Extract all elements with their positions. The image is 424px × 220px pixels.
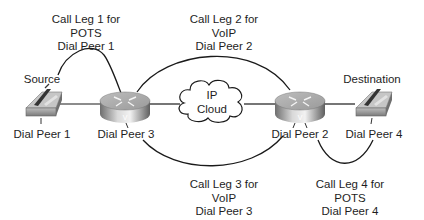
ip-cloud-label: IP Cloud: [197, 89, 227, 116]
call-leg-3-label: Call Leg 3 for VoIP Dial Peer 3: [190, 178, 258, 219]
call-leg-2-line3: Dial Peer 2: [190, 40, 258, 54]
ip-cloud-line2: Cloud: [197, 103, 227, 117]
call-leg-2-label: Call Leg 2 for VoIP Dial Peer 2: [190, 13, 258, 54]
dial-peer-4-label: Dial Peer 4: [346, 128, 403, 142]
svg-text:V: V: [298, 114, 303, 121]
call-leg-3-line3: Dial Peer 3: [190, 205, 258, 219]
call-leg-3-line2: VoIP: [190, 192, 258, 206]
router-dial-peer-2-icon: V: [275, 92, 325, 128]
call-leg-3-arc: [143, 136, 283, 166]
router-dial-peer-3-icon: V: [100, 92, 150, 128]
source-label: Source: [24, 73, 60, 87]
call-leg-4-line2: POTS: [316, 192, 384, 206]
ip-cloud-line1: IP: [197, 89, 227, 103]
dial-peer-3-label: Dial Peer 3: [98, 128, 155, 142]
svg-text:V: V: [123, 114, 128, 121]
destination-phone-icon: [356, 89, 392, 124]
call-leg-3-line1: Call Leg 3 for: [190, 178, 258, 192]
dial-peer-2-label: Dial Peer 2: [272, 128, 329, 142]
call-leg-2-line2: VoIP: [190, 27, 258, 41]
call-leg-1-line1: Call Leg 1 for: [52, 13, 120, 27]
call-leg-1-line3: Dial Peer 1: [52, 40, 120, 54]
call-leg-1-line2: POTS: [52, 27, 120, 41]
call-leg-2-line1: Call Leg 2 for: [190, 13, 258, 27]
call-leg-1-label: Call Leg 1 for POTS Dial Peer 1: [52, 13, 120, 54]
call-leg-4-line1: Call Leg 4 for: [316, 178, 384, 192]
source-phone-icon: [26, 84, 62, 124]
call-leg-1-arc: [58, 48, 121, 93]
call-leg-4-label: Call Leg 4 for POTS Dial Peer 4: [316, 178, 384, 219]
destination-label: Destination: [343, 73, 401, 87]
call-leg-4-arc: [318, 140, 373, 163]
call-leg-4-line3: Dial Peer 4: [316, 205, 384, 219]
dial-peer-1-label: Dial Peer 1: [14, 128, 71, 142]
